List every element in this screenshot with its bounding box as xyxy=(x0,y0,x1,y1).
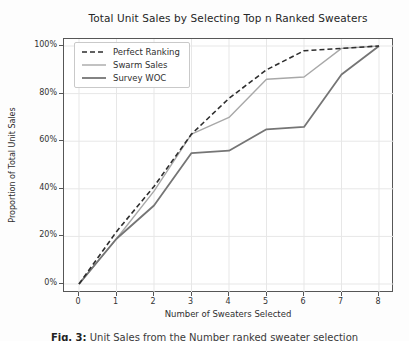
y-tick-label: 100% xyxy=(0,40,57,50)
y-tick-mark xyxy=(59,93,63,94)
y-tick-mark xyxy=(59,188,63,189)
x-tick-mark xyxy=(228,292,229,296)
legend-item: Swarm Sales xyxy=(82,60,180,70)
y-axis-label: Proportion of Total Unit Sales xyxy=(8,107,17,222)
legend-item-label: Survey WOC xyxy=(113,73,166,83)
legend-item: Perfect Ranking xyxy=(82,47,180,57)
figure-caption-text: Unit Sales from the Number ranked sweate… xyxy=(90,332,358,341)
legend: Perfect RankingSwarm SalesSurvey WOC xyxy=(74,42,190,88)
y-tick-mark xyxy=(59,45,63,46)
x-tick-label: 6 xyxy=(293,297,313,306)
x-tick-mark xyxy=(341,292,342,296)
y-tick-label: 80% xyxy=(0,88,57,98)
legend-line-swatch xyxy=(82,50,106,54)
y-tick-label: 0% xyxy=(0,278,57,288)
y-tick-mark xyxy=(59,140,63,141)
y-tick-label: 20% xyxy=(0,230,57,240)
x-tick-label: 1 xyxy=(106,297,126,306)
x-tick-mark xyxy=(266,292,267,296)
legend-item: Survey WOC xyxy=(82,73,180,83)
legend-line-swatch xyxy=(82,63,106,67)
x-tick-label: 2 xyxy=(143,297,163,306)
legend-item-label: Perfect Ranking xyxy=(113,47,180,57)
x-tick-mark xyxy=(303,292,304,296)
x-tick-label: 3 xyxy=(181,297,201,306)
x-tick-label: 5 xyxy=(256,297,276,306)
y-tick-mark xyxy=(59,283,63,284)
chart-title: Total Unit Sales by Selecting Top n Rank… xyxy=(63,12,393,24)
x-tick-mark xyxy=(153,292,154,296)
x-tick-mark xyxy=(78,292,79,296)
figure-caption-label: Fig. 3: xyxy=(51,332,87,341)
x-tick-mark xyxy=(191,292,192,296)
x-tick-label: 8 xyxy=(368,297,388,306)
x-axis-label: Number of Sweaters Selected xyxy=(63,309,393,319)
x-tick-label: 7 xyxy=(331,297,351,306)
x-tick-mark xyxy=(116,292,117,296)
legend-line-swatch xyxy=(82,76,106,80)
figure-page: Total Unit Sales by Selecting Top n Rank… xyxy=(0,0,409,341)
y-tick-mark xyxy=(59,235,63,236)
x-tick-mark xyxy=(378,292,379,296)
figure-caption: Fig. 3: Unit Sales from the Number ranke… xyxy=(0,331,409,341)
x-tick-label: 0 xyxy=(68,297,88,306)
x-tick-label: 4 xyxy=(218,297,238,306)
legend-item-label: Swarm Sales xyxy=(113,60,168,70)
